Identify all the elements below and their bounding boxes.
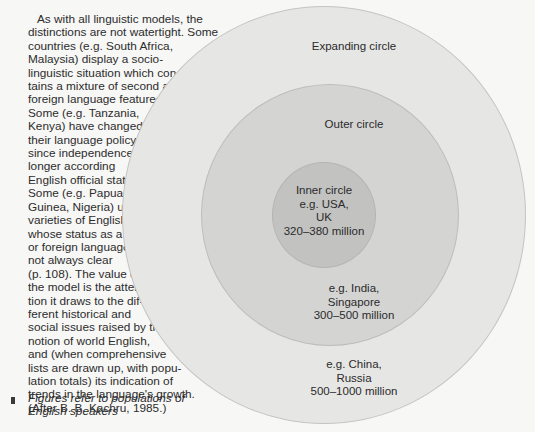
inner-circle-title: Inner circle [254, 184, 394, 198]
inner-circle-info: Inner circle e.g. USA, UK 320–380 millio… [254, 184, 394, 238]
text-line: As with all linguistic models, the [28, 13, 213, 26]
expanding-circle-examples-1: e.g. China, [284, 358, 424, 372]
outer-circle-info: e.g. India, Singapore 300–500 million [284, 282, 424, 323]
inner-circle-population: 320–380 million [254, 225, 394, 239]
figure-caption: Figures refer to populations of English … [28, 392, 185, 419]
outer-circle-examples-1: e.g. India, [284, 282, 424, 296]
expanding-circle-info: e.g. China, Russia 500–1000 million [284, 358, 424, 399]
expanding-circle-population: 500–1000 million [284, 385, 424, 399]
outer-circle-population: 300–500 million [284, 309, 424, 323]
expanding-circle-examples-2: Russia [284, 372, 424, 386]
inner-circle-examples-1: e.g. USA, [254, 198, 394, 212]
text-line: countries (e.g. South Africa, [28, 40, 213, 53]
caption-line: English speakers [28, 405, 185, 418]
expanding-circle-title: Expanding circle [284, 40, 424, 54]
inner-circle-examples-2: UK [254, 211, 394, 225]
text-line: lation totals) its indication of [28, 375, 213, 388]
text-line: distinctions are not watertight. Some [28, 26, 213, 39]
outer-circle-examples-2: Singapore [284, 296, 424, 310]
caption-line: Figures refer to populations of [28, 392, 185, 405]
outer-circle-title: Outer circle [284, 118, 424, 132]
caption-marker-icon [11, 397, 15, 404]
